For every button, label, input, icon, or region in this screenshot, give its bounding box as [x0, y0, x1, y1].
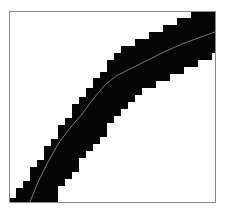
- plot-canvas: [0, 0, 225, 212]
